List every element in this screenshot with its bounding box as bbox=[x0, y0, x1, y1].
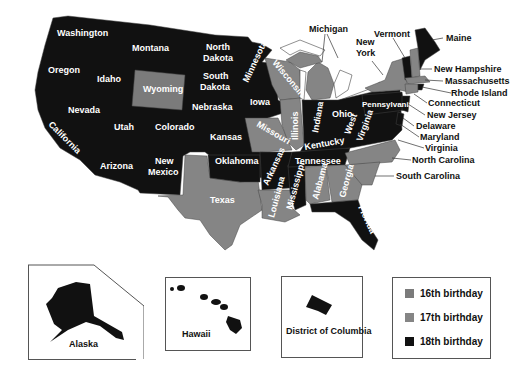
label-new-mexico-1: New bbox=[155, 156, 175, 166]
dc-inset: District of Columbia bbox=[281, 276, 363, 358]
label-montana: Montana bbox=[132, 43, 170, 53]
label-new-jersey: New Jersey bbox=[427, 110, 477, 120]
alaska-label: Alaska bbox=[69, 339, 98, 349]
label-colorado: Colorado bbox=[155, 122, 195, 132]
label-connecticut: Connecticut bbox=[428, 98, 480, 108]
label-vermont: Vermont bbox=[374, 29, 410, 39]
label-north-carolina: North Carolina bbox=[412, 155, 475, 165]
label-south-dakota-1: South bbox=[203, 71, 229, 81]
state-michigan bbox=[306, 62, 334, 100]
label-washington: Washington bbox=[57, 28, 108, 38]
label-massachusetts: Massachusetts bbox=[445, 76, 510, 86]
legend-label-17th: 17th birthday bbox=[420, 312, 483, 323]
label-kansas: Kansas bbox=[210, 132, 242, 142]
label-north-dakota-2: Dakota bbox=[203, 53, 234, 63]
label-delaware: Delaware bbox=[416, 121, 456, 131]
label-maryland: Maryland bbox=[420, 132, 460, 142]
alaska-inset: Alaska bbox=[28, 265, 136, 360]
state-connecticut bbox=[405, 84, 418, 94]
label-illinois: Illinois bbox=[290, 111, 300, 140]
label-pennsylvania: Pennsylvania bbox=[362, 100, 414, 109]
label-south-carolina: South Carolina bbox=[396, 171, 461, 181]
label-rhode-island: Rhode Island bbox=[451, 88, 508, 98]
legend-item-16th: 16th birthday bbox=[405, 288, 483, 299]
label-idaho: Idaho bbox=[97, 74, 122, 84]
label-new-mexico-2: Mexico bbox=[148, 167, 179, 177]
label-nevada: Nevada bbox=[68, 105, 101, 115]
hawaii-shape-icon bbox=[166, 278, 250, 350]
label-utah: Utah bbox=[114, 122, 134, 132]
label-new-hampshire: New Hampshire bbox=[434, 64, 502, 74]
label-new-york-2: York bbox=[356, 48, 376, 58]
alaska-shape-icon bbox=[46, 282, 124, 342]
label-south-dakota-2: Dakota bbox=[200, 82, 231, 92]
label-new-york-1: New bbox=[356, 37, 376, 47]
label-nebraska: Nebraska bbox=[192, 102, 234, 112]
label-oregon: Oregon bbox=[48, 65, 80, 75]
legend-swatch-16th bbox=[405, 289, 414, 298]
label-virginia: Virginia bbox=[425, 143, 459, 153]
label-north-dakota-1: North bbox=[206, 42, 230, 52]
legend-swatch-18th bbox=[405, 337, 414, 346]
legend-swatch-17th bbox=[405, 313, 414, 322]
label-arizona: Arizona bbox=[100, 161, 134, 171]
us-map: Washington Oregon California Idaho Nevad… bbox=[0, 0, 528, 260]
label-oklahoma: Oklahoma bbox=[215, 156, 260, 166]
hawaii-label: Hawaii bbox=[182, 329, 211, 339]
hawaii-inset: Hawaii bbox=[165, 277, 251, 351]
dc-label: District of Columbia bbox=[286, 326, 372, 336]
legend-item-18th: 18th birthday bbox=[405, 336, 483, 347]
legend-label-16th: 16th birthday bbox=[420, 288, 483, 299]
label-michigan: Michigan bbox=[309, 24, 348, 34]
legend-item-17th: 17th birthday bbox=[405, 312, 483, 323]
label-maine: Maine bbox=[446, 33, 472, 43]
state-new-york bbox=[365, 58, 408, 92]
legend: 16th birthday 17th birthday 18th birthda… bbox=[392, 277, 491, 359]
dc-shape-icon bbox=[282, 277, 362, 357]
label-texas: Texas bbox=[210, 195, 235, 205]
label-iowa: Iowa bbox=[250, 97, 271, 107]
label-wyoming: Wyoming bbox=[143, 84, 183, 94]
legend-label-18th: 18th birthday bbox=[420, 336, 483, 347]
